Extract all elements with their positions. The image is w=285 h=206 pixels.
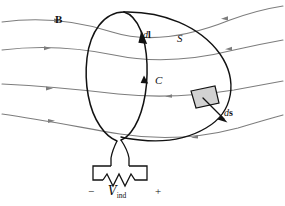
- induced-emf-circuit: [93, 166, 147, 186]
- label-ds-vector: s: [229, 107, 233, 118]
- magnetic-field-lines: [2, 6, 283, 139]
- field-line-3: [2, 81, 283, 98]
- label-terminal-negative: −: [88, 186, 94, 197]
- loop-neck-wires: [111, 140, 129, 166]
- label-contour-c: C: [155, 75, 162, 86]
- label-emf-symbol: V: [108, 184, 117, 198]
- label-line-element-dl: dl: [143, 30, 151, 40]
- loop-c: [86, 12, 148, 141]
- field-line-4: [2, 114, 283, 139]
- area-element-patch: [191, 86, 219, 108]
- label-magnetic-field-b: B: [55, 14, 62, 25]
- label-terminal-positive: +: [155, 186, 161, 197]
- label-area-element-ds: ds: [224, 108, 233, 118]
- label-surface-s: S: [177, 33, 183, 44]
- label-dl-vector: l: [148, 29, 151, 40]
- faraday-law-figure: B dl S C ds − Vind +: [0, 0, 285, 206]
- label-induced-emf: Vind: [108, 185, 126, 200]
- label-emf-subscript: ind: [117, 191, 127, 200]
